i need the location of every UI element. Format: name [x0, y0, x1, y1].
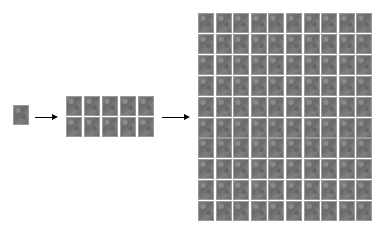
image-tile [357, 56, 371, 74]
image-tile [234, 202, 248, 220]
image-tile [340, 202, 354, 220]
image-tile [357, 14, 371, 32]
image-tile [357, 77, 371, 95]
image-tile [287, 139, 301, 157]
image-tile [322, 139, 336, 157]
image-tile [234, 56, 248, 74]
image-tile [14, 106, 28, 124]
image-tile [287, 160, 301, 178]
image-tile [287, 56, 301, 74]
image-tile [234, 14, 248, 32]
image-tile [305, 181, 319, 199]
image-tile [217, 139, 231, 157]
image-tile [340, 56, 354, 74]
image-tile [234, 77, 248, 95]
image-tile [287, 98, 301, 116]
image-tile [234, 160, 248, 178]
image-tile [269, 14, 283, 32]
image-tile [217, 77, 231, 95]
image-tile [217, 202, 231, 220]
image-tile [234, 119, 248, 137]
image-tile [287, 181, 301, 199]
image-tile [357, 98, 371, 116]
image-tile [199, 35, 213, 53]
image-tile [357, 139, 371, 157]
image-tile [357, 202, 371, 220]
image-tile [322, 35, 336, 53]
image-tile [357, 160, 371, 178]
image-tile [357, 119, 371, 137]
image-tile [139, 97, 153, 115]
image-tile [269, 139, 283, 157]
image-tile [252, 14, 266, 32]
image-tile [305, 77, 319, 95]
image-tile [287, 35, 301, 53]
image-tile [199, 139, 213, 157]
image-tile [287, 77, 301, 95]
image-tile [139, 118, 153, 136]
image-tile [340, 119, 354, 137]
image-tile [121, 118, 135, 136]
image-tile [305, 35, 319, 53]
image-tile [85, 118, 99, 136]
image-tile [305, 14, 319, 32]
image-tile [217, 56, 231, 74]
image-tile [357, 181, 371, 199]
image-tile [199, 119, 213, 137]
image-tile [199, 181, 213, 199]
image-tile [252, 56, 266, 74]
image-tile [305, 56, 319, 74]
image-tile [217, 35, 231, 53]
image-tile [199, 14, 213, 32]
image-tile [252, 181, 266, 199]
arrow-right-icon [35, 117, 56, 118]
image-tile [340, 98, 354, 116]
image-tile [217, 119, 231, 137]
image-tile [322, 56, 336, 74]
image-tile [217, 14, 231, 32]
image-tile [234, 181, 248, 199]
image-tile [322, 181, 336, 199]
image-tile [217, 98, 231, 116]
image-tile [305, 98, 319, 116]
image-tile [269, 181, 283, 199]
image-tile [357, 35, 371, 53]
image-tile [67, 118, 81, 136]
image-tile [287, 119, 301, 137]
image-tile [252, 119, 266, 137]
arrow-right-icon [162, 117, 188, 118]
image-tile [217, 160, 231, 178]
image-tile [252, 202, 266, 220]
image-tile [322, 14, 336, 32]
image-tile [305, 160, 319, 178]
image-tile [322, 119, 336, 137]
image-tile [199, 160, 213, 178]
image-tile [269, 56, 283, 74]
image-tile [85, 97, 99, 115]
image-tile [199, 56, 213, 74]
image-tile [322, 77, 336, 95]
image-tile [199, 77, 213, 95]
image-tile [103, 97, 117, 115]
image-tile [287, 202, 301, 220]
image-tile [269, 119, 283, 137]
image-tile [340, 14, 354, 32]
image-tile [322, 160, 336, 178]
image-tile [269, 77, 283, 95]
image-tile [269, 160, 283, 178]
image-tile [252, 139, 266, 157]
image-tile [340, 35, 354, 53]
image-tile [252, 98, 266, 116]
image-tile [269, 202, 283, 220]
image-tile [67, 97, 81, 115]
image-tile [340, 139, 354, 157]
image-tile [287, 14, 301, 32]
image-tile [103, 118, 117, 136]
image-tile [322, 202, 336, 220]
image-tile [340, 181, 354, 199]
image-tile [305, 202, 319, 220]
image-tile [305, 119, 319, 137]
image-tile [252, 160, 266, 178]
image-tile [234, 98, 248, 116]
image-tile [199, 98, 213, 116]
